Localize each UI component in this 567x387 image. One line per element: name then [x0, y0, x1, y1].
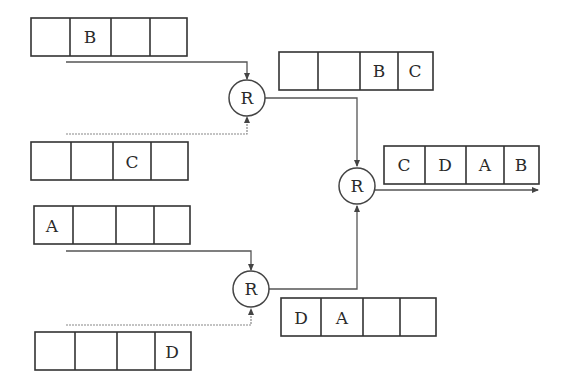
cell: C: [125, 152, 138, 172]
intermediate-buffer-top: B C: [279, 52, 433, 90]
cell: A: [335, 308, 349, 328]
router-label: R: [241, 88, 255, 108]
input-buffer-2: C: [31, 142, 188, 180]
output-buffer: C D A B: [384, 146, 539, 184]
cell: D: [294, 308, 308, 328]
cell: D: [165, 342, 179, 362]
router-node-r3: R: [339, 168, 375, 204]
router-label: R: [245, 279, 259, 299]
wire-in2-to-r1: [66, 117, 247, 134]
wire-in1-to-r1: [66, 62, 247, 79]
cell: B: [84, 27, 97, 47]
router-node-r2: R: [233, 271, 269, 307]
wire-r2-to-r3: [269, 206, 357, 289]
wire-r1-to-r3: [265, 98, 357, 166]
intermediate-buffer-bottom: D A: [281, 298, 436, 336]
wires: [66, 62, 538, 325]
cell: D: [438, 155, 452, 175]
router-node-r1: R: [229, 80, 265, 116]
cell: B: [373, 61, 386, 81]
cell: C: [408, 61, 421, 81]
router-label: R: [351, 176, 365, 196]
routing-diagram: B C B C C D A B: [0, 0, 567, 387]
input-buffer-3: A: [34, 206, 190, 244]
cell: A: [478, 155, 492, 175]
input-buffer-1: B: [31, 18, 187, 56]
wire-in3-to-r2: [66, 251, 251, 270]
cell: B: [515, 155, 528, 175]
input-buffer-4: D: [35, 332, 191, 370]
cell: C: [397, 155, 410, 175]
cell: A: [45, 216, 59, 236]
wire-in4-to-r2: [66, 309, 251, 325]
